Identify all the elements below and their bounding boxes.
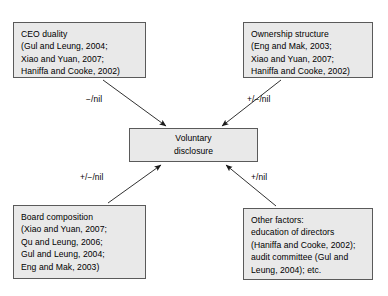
edge-label-other-factors: +/nil (251, 172, 267, 182)
node-ceo-duality: CEO duality (Gul and Leung, 2004; Xiao a… (13, 22, 146, 78)
node-other-factors: Other factors: education of directors (H… (243, 208, 373, 280)
arrow-ceo-duality-to-central (103, 80, 166, 126)
edge-label-ceo-duality: −/nil (86, 94, 102, 104)
node-ownership-structure: Ownership structure (Eng and Mak, 2003; … (243, 22, 373, 78)
arrow-board-composition-to-central (108, 165, 161, 203)
node-voluntary-disclosure: Voluntary disclosure (129, 128, 258, 162)
edge-label-ownership-structure: +/−/nil (247, 94, 271, 104)
edge-label-board-composition: +/−/nil (80, 172, 104, 182)
diagram-canvas: CEO duality (Gul and Leung, 2004; Xiao a… (0, 0, 388, 296)
node-board-composition: Board composition (Xiao and Yuan, 2007; … (13, 205, 146, 279)
